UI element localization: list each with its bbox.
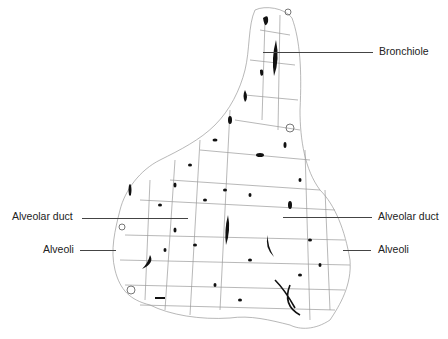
alveoli-right-leader xyxy=(343,250,371,251)
tissue-outline xyxy=(113,8,350,329)
alveoli-left-leader xyxy=(80,250,116,251)
label-alveolar-duct-right: Alveolar duct xyxy=(378,210,439,222)
label-alveoli-right: Alveoli xyxy=(378,243,409,255)
label-alveoli-left: Alveoli xyxy=(43,243,74,255)
label-alveolar-duct-left: Alveolar duct xyxy=(12,210,73,222)
bronchiole-leader xyxy=(263,52,373,53)
wall-markings xyxy=(129,16,322,315)
label-bronchiole: Bronchiole xyxy=(379,45,429,57)
alveolar-duct-left-leader xyxy=(82,218,188,219)
alveolar-duct-right-leader xyxy=(283,217,372,218)
